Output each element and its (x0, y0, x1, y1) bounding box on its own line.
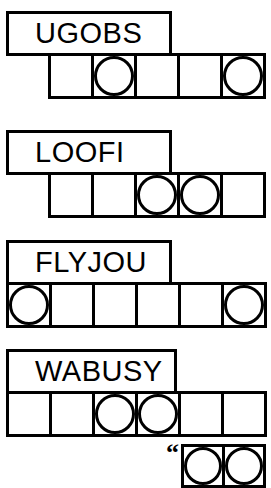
clue-box-1[interactable]: UGOBS (6, 11, 172, 56)
answer-cell[interactable] (220, 172, 266, 218)
answer-teaser-row: “ (166, 444, 263, 488)
open-quote-icon: “ (166, 444, 179, 463)
answer-cell[interactable] (177, 53, 223, 99)
answer-cell[interactable] (135, 282, 181, 328)
answer-cell[interactable] (49, 391, 95, 437)
circle-marker-icon (180, 175, 220, 215)
clue-box-2[interactable]: LOOFI (6, 130, 172, 175)
circle-marker-icon (95, 394, 135, 434)
answer-cell[interactable] (221, 391, 267, 437)
answer-cell-circled[interactable] (221, 282, 267, 328)
circle-marker-icon (223, 56, 263, 96)
answer-strip-1 (48, 53, 266, 99)
answer-cell-circled[interactable] (6, 282, 52, 328)
answer-cell-circled[interactable] (92, 391, 138, 437)
answer-strip-2 (48, 172, 266, 218)
teaser-cells (181, 444, 263, 488)
answer-strip-4 (6, 391, 267, 437)
clue-text-2: LOOFI (9, 138, 125, 167)
teaser-cell-circled[interactable] (181, 444, 225, 488)
answer-cell[interactable] (92, 282, 138, 328)
answer-cell-circled[interactable] (91, 53, 137, 99)
answer-cell[interactable] (91, 172, 137, 218)
circle-marker-icon (225, 447, 263, 485)
circle-marker-icon (184, 447, 222, 485)
circle-marker-icon (94, 56, 134, 96)
clue-box-3[interactable]: FLYJOU (6, 240, 172, 285)
clue-box-4[interactable]: WABUSY (6, 349, 177, 394)
teaser-cell-circled[interactable] (222, 444, 266, 488)
answer-cell-circled[interactable] (134, 172, 180, 218)
answer-cell[interactable] (49, 282, 95, 328)
circle-marker-icon (224, 285, 264, 325)
circle-marker-icon (138, 394, 178, 434)
circle-marker-icon (137, 175, 177, 215)
clue-text-4: WABUSY (9, 357, 163, 386)
answer-cell[interactable] (178, 391, 224, 437)
answer-cell[interactable] (178, 282, 224, 328)
answer-cell[interactable] (48, 172, 94, 218)
answer-strip-3 (6, 282, 267, 328)
answer-cell[interactable] (134, 53, 180, 99)
answer-cell[interactable] (6, 391, 52, 437)
answer-cell-circled[interactable] (177, 172, 223, 218)
answer-cell-circled[interactable] (220, 53, 266, 99)
clue-text-1: UGOBS (9, 19, 142, 48)
clue-text-3: FLYJOU (9, 248, 147, 277)
answer-cell[interactable] (48, 53, 94, 99)
circle-marker-icon (9, 285, 49, 325)
answer-cell-circled[interactable] (135, 391, 181, 437)
